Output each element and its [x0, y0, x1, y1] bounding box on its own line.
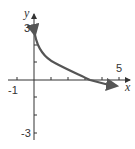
curve-line	[35, 35, 117, 86]
y-tick-label-neg3: -3	[21, 127, 31, 139]
y-tick-label-3: 3	[24, 22, 30, 34]
x-axis-label: x	[124, 80, 131, 94]
y-axis-label: y	[23, 6, 30, 20]
x-tick-label-neg1: -1	[8, 84, 18, 96]
x-tick-label-5: 5	[116, 62, 122, 74]
graph: y x 3 -3 -1 5	[0, 0, 135, 149]
